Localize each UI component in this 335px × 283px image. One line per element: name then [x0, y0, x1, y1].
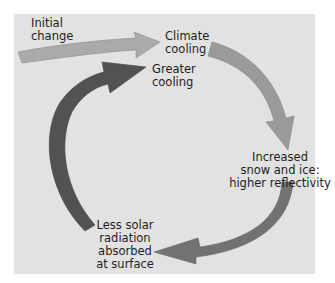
- label-line: cooling: [152, 76, 196, 89]
- label-less-solar-radiation: Less solar radiation absorbed at surface: [96, 219, 154, 271]
- label-line: change: [31, 30, 73, 43]
- label-line: cooling: [165, 43, 209, 56]
- cooling-to-snow-arrow-icon: [208, 42, 294, 150]
- label-greater-cooling: Greater cooling: [152, 63, 196, 89]
- label-initial-change: Initial change: [31, 17, 73, 43]
- label-climate-cooling: Climate cooling: [165, 30, 209, 56]
- radiation-to-greater-arrow-icon: [49, 62, 146, 231]
- label-increased-snow-ice: Increased snow and ice: higher reflectiv…: [228, 151, 332, 190]
- label-line: higher reflectivity: [228, 177, 332, 190]
- snow-to-radiation-arrow-icon: [154, 182, 293, 264]
- label-line: at surface: [96, 258, 154, 271]
